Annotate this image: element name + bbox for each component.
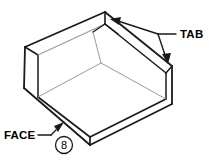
item-balloon-8: 8 [56,137,73,154]
left-wall-rim-thickness [25,47,38,55]
isometric-tray-drawing: TAB FACE 8 [0,0,216,161]
interior-divider-line [38,63,101,97]
face-label: FACE [4,129,36,141]
front-face-top-rim [38,97,90,137]
tab-label: TAB [180,28,203,40]
face-annotation: FACE [4,122,64,141]
tab-annotation: TAB [110,17,203,64]
interior-divider-riser [93,32,101,63]
right-wall-inner-rim [105,24,166,73]
interior-floor-edge [101,63,166,99]
technical-drawing-figure: TAB FACE 8 [0,0,216,161]
back-tab-fold-left [93,24,105,32]
front-face-bottom-edge [90,104,172,145]
left-wall-outer-edge [24,47,25,88]
balloon-number: 8 [61,139,67,151]
front-face-right-rim [90,99,166,137]
tab-leader-line-lower [158,34,165,55]
face-leader-line-angled [51,130,56,135]
